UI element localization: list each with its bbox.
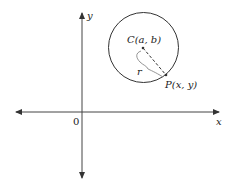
diagram-svg: x y 0 C(a, b) P(x, y) r <box>0 0 231 187</box>
y-axis-label: y <box>86 10 93 21</box>
x-axis-label: x <box>216 116 222 127</box>
radius-label: r <box>137 66 143 77</box>
center-label: C(a, b) <box>127 34 161 45</box>
point-p-label: P(x, y) <box>164 79 197 90</box>
circle-diagram: x y 0 C(a, b) P(x, y) r <box>0 0 231 187</box>
origin-label: 0 <box>73 116 79 127</box>
radius-line <box>143 48 166 75</box>
point-p <box>165 74 168 77</box>
